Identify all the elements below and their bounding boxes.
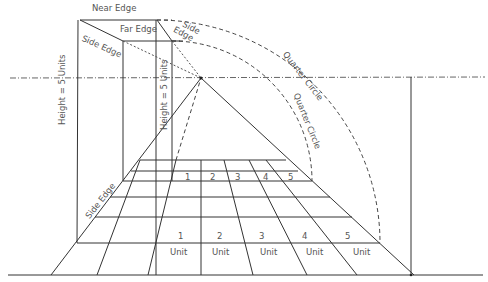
near-edge-left-vertical (77, 20, 78, 243)
vanishing-point (199, 76, 202, 79)
grid-left-diagonal (51, 78, 201, 275)
near-number-1: 1 (178, 232, 183, 241)
height-right-label: Height = 5 Units (160, 60, 169, 130)
near-number-4: 4 (302, 232, 307, 241)
far-number-1: 1 (185, 173, 190, 182)
far-number-5: 5 (288, 173, 293, 182)
near-edge-label: Near Edge (92, 4, 136, 13)
unit-label-3: Unit (260, 248, 277, 257)
near-number-2: 2 (217, 232, 222, 241)
near-number-3: 3 (259, 232, 264, 241)
far-edge-label: Far Edge (120, 25, 157, 34)
far-number-2: 2 (210, 173, 215, 182)
quarter-circle-outer (157, 20, 380, 243)
far-number-3: 3 (235, 173, 240, 182)
far-number-4: 4 (263, 173, 268, 182)
unit-label-1: Unit (170, 248, 187, 257)
side-edge-top-right-ext (172, 41, 201, 78)
grid-converge-2-dashed (176, 78, 201, 160)
ground-point (410, 274, 413, 277)
unit-label-2: Unit (212, 248, 229, 257)
perspective-diagram (0, 0, 488, 282)
unit-label-5: Unit (353, 248, 370, 257)
horizon-line (10, 77, 485, 78)
height-left-label: Height = 5 Units (58, 55, 67, 125)
unit-label-4: Unit (306, 248, 323, 257)
near-number-5: 5 (345, 232, 350, 241)
